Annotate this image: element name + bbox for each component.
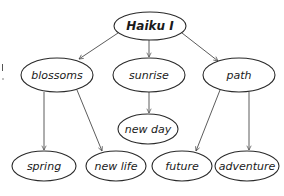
node-adventure: adventure — [215, 151, 279, 181]
node-newlife: new life — [86, 151, 146, 181]
node-path: path — [203, 58, 275, 92]
node-newday-label: new day — [125, 123, 172, 136]
haiku-tree-diagram: Haiku I blossoms sunrise path new day sp… — [0, 0, 284, 196]
edge-mark — [2, 64, 3, 71]
node-blossoms: blossoms — [21, 58, 93, 92]
node-future-label: future — [165, 160, 199, 173]
node-blossoms-label: blossoms — [31, 69, 83, 82]
node-future: future — [152, 151, 212, 181]
edge-blossoms-newlife — [77, 90, 102, 151]
node-newday: new day — [118, 114, 178, 144]
node-newlife-label: new life — [95, 160, 138, 173]
edge-root-path — [182, 33, 218, 61]
node-sunrise: sunrise — [113, 58, 185, 92]
node-path-label: path — [225, 69, 251, 82]
edge-root-blossoms — [79, 33, 118, 59]
edge-path-future — [196, 90, 220, 151]
node-sunrise-label: sunrise — [129, 69, 169, 82]
node-root-label: Haiku I — [126, 19, 174, 33]
node-adventure-label: adventure — [219, 160, 276, 173]
node-root: Haiku I — [114, 12, 186, 40]
edge-dot — [2, 78, 3, 79]
node-spring: spring — [12, 151, 76, 181]
node-spring-label: spring — [27, 160, 61, 173]
